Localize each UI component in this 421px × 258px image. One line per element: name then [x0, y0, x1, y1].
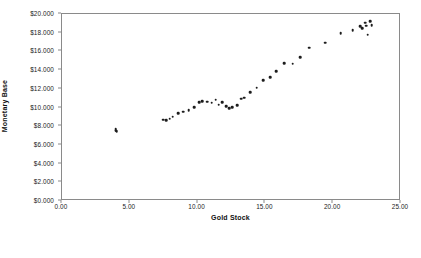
x-tick-mark [264, 200, 265, 203]
x-tick-label: 0.00 [55, 203, 68, 210]
x-axis-title: Gold Stock [61, 214, 400, 221]
x-tick-mark [400, 200, 401, 203]
x-tick-label: 15.00 [256, 203, 273, 210]
scatter-chart-figure: $0.000$2.000$4.000$6.000$8.000$10.000$12… [0, 0, 421, 258]
x-tick-mark [128, 200, 129, 203]
y-axis-title: Monetary Base [1, 80, 8, 132]
x-tick-label: 25.00 [392, 203, 409, 210]
x-tick-mark [332, 200, 333, 203]
x-tick-mark [196, 200, 197, 203]
x-tick-label: 20.00 [324, 203, 341, 210]
x-tick-mark [61, 200, 62, 203]
x-tick-label: 5.00 [122, 203, 135, 210]
x-tick-label: 10.00 [188, 203, 205, 210]
